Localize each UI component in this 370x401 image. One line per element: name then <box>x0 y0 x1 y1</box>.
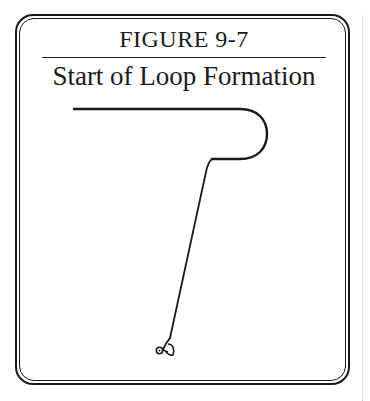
horizontal-line <box>74 109 267 159</box>
tag-end-knot-icon <box>156 338 173 355</box>
loop-formation-diagram <box>0 0 370 401</box>
descending-line <box>170 159 212 338</box>
